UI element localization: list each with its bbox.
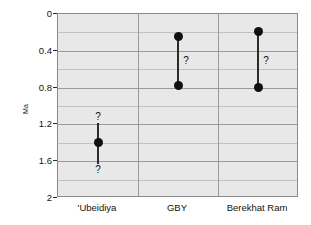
data-point-ubeidiya[interactable] (94, 138, 103, 147)
y-tick-label-0-8: 0.8 (4, 81, 52, 92)
category-separator-2 (218, 14, 219, 196)
data-point-berekhat-ram-upper[interactable] (254, 27, 263, 36)
y-tick-label-0: 0 (4, 8, 52, 19)
y-tick-label-2: 2 (4, 192, 52, 203)
range-line-gby (177, 36, 179, 86)
plot-area: ? ? ? ? (57, 13, 298, 197)
y-axis-tick-labels: 0 0.4 0.8 1.2 1.6 2 (0, 0, 52, 225)
range-line-berekhat-ram (257, 32, 259, 88)
data-point-berekhat-ram-lower[interactable] (254, 83, 263, 92)
uncertainty-marker-gby: ? (183, 56, 189, 66)
uncertainty-marker-ubeidiya-lower: ? (95, 165, 101, 175)
uncertainty-marker-ubeidiya-upper: ? (95, 112, 101, 122)
y-tick-label-1-6: 1.6 (4, 155, 52, 166)
y-tick-label-1-2: 1.2 (4, 118, 52, 129)
gridline-major-1-6 (58, 161, 297, 162)
y-tick-mark-2 (53, 197, 57, 198)
data-point-gby-upper[interactable] (174, 32, 183, 41)
data-point-gby-lower[interactable] (174, 81, 183, 90)
uncertainty-marker-berekhat-ram: ? (263, 56, 269, 66)
x-tick-label-berekhat-ram: Berekhat Ram (227, 202, 288, 213)
gridline-minor-1-8 (58, 180, 297, 181)
gridline-major-1-2 (58, 124, 297, 125)
chart-figure: Ma 0 0.4 0.8 1.2 1.6 2 ? ? (0, 0, 311, 225)
x-tick-label-gby: GBY (167, 202, 187, 213)
y-tick-label-0-4: 0.4 (4, 44, 52, 55)
gridline-minor-1-0 (58, 106, 297, 107)
category-separator-1 (138, 14, 139, 196)
x-tick-label-ubeidiya: 'Ubeidiya (78, 202, 117, 213)
